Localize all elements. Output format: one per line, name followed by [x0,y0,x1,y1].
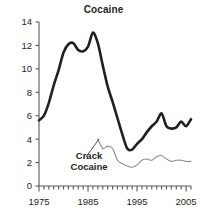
y-tick-label: 8 [27,87,32,98]
x-axis: 1975198519952005 [28,186,196,207]
y-tick-label: 12 [21,40,32,51]
chart-plot-area: 02468101214 1975198519952005 CrackCocain… [0,0,207,221]
y-tick-label: 6 [27,110,32,121]
cocaine-chart: Cocaine 02468101214 1975198519952005 Cra… [0,0,207,221]
y-tick-label: 14 [21,16,32,27]
y-tick-label: 4 [27,134,32,145]
series-lines [39,33,191,168]
x-tick-label: 2005 [176,196,197,207]
annotation-label: Cocaine [71,161,108,172]
x-tick-label: 1985 [77,196,98,207]
x-tick-label: 1975 [28,196,49,207]
y-tick-label: 10 [21,63,32,74]
series-line-cocaine [39,33,191,151]
y-axis: 02468101214 [21,16,39,191]
y-tick-label: 0 [27,180,32,191]
series-line-crack-cocaine [98,139,191,167]
y-tick-label: 2 [27,157,32,168]
x-tick-label: 1995 [126,196,147,207]
